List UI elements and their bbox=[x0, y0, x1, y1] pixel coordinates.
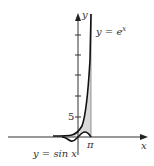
y-axis-label: y bbox=[81, 9, 88, 20]
exp-curve-label: y = ex bbox=[95, 25, 126, 37]
x-tick-label-pi: π bbox=[86, 139, 94, 150]
y-axis-arrow-icon bbox=[75, 13, 81, 21]
y-tick-label-5: 5 bbox=[68, 111, 74, 122]
area-between-curves-diagram: y x 5 π y = ex y = sin x bbox=[0, 0, 154, 166]
sin-curve-label: y = sin x bbox=[32, 148, 77, 159]
x-axis-label: x bbox=[141, 140, 147, 151]
